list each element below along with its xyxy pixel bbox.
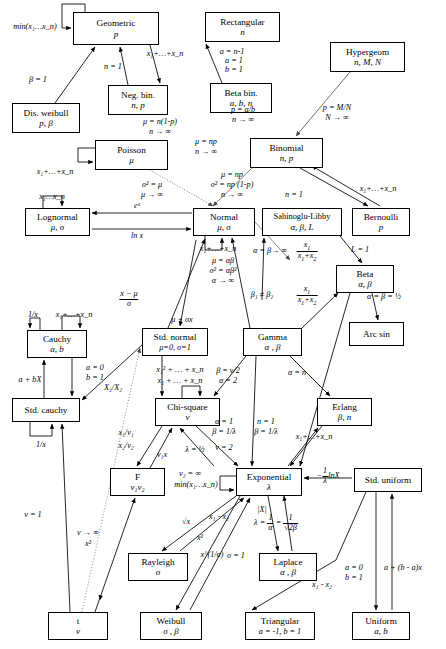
edge-label-p-equals-m-over-n: p = M/N bbox=[323, 103, 351, 112]
node-params: α , β bbox=[280, 567, 296, 577]
fraction-x1-over-x1-plus-x2-b: x1x1+x2 bbox=[297, 285, 318, 306]
edge-label-p-equals-a-over-b: p = a/b bbox=[231, 105, 255, 114]
edge-label-b-equals-1-cauchy: b = 1 bbox=[86, 373, 104, 382]
node-label: Gamma bbox=[258, 332, 287, 342]
node-binomial[interactable]: Binomial n, p bbox=[250, 138, 323, 168]
edge-label-min-geometric: min(x₁…x_n) bbox=[13, 22, 56, 31]
edge-label-ln-x: ln x bbox=[131, 231, 143, 240]
edge-label-beta-equals-1: β = 1 bbox=[29, 75, 47, 84]
node-rectangular[interactable]: Rectangular n bbox=[205, 12, 280, 42]
edge-label-x-to-1-over-alpha: x^(1/α) bbox=[200, 550, 223, 559]
node-std-cauchy[interactable]: Std. cauchy bbox=[12, 398, 80, 422]
fraction-x-minus-mu-over-sigma: x − μσ bbox=[119, 290, 138, 308]
node-params: μ=0, σ=1 bbox=[159, 343, 190, 352]
edge-label-xs-lognormal: x₁…x_n bbox=[39, 192, 65, 201]
edge-label-x2-over-nu2: x₂/ν₂ bbox=[118, 441, 133, 450]
node-gamma[interactable]: Gamma α , β bbox=[243, 328, 302, 356]
edge-label-nu-equals-2: ν = 2 bbox=[215, 443, 232, 452]
node-dis-weibull[interactable]: Dis. weibull p, β bbox=[12, 103, 80, 133]
edge-label-sum-geometric: x₁+…+x_n bbox=[147, 49, 184, 58]
edge-label-mu-alpha-beta: μ = αβ bbox=[212, 256, 234, 265]
node-label: Laplace bbox=[273, 557, 302, 567]
node-params: ν₁ν₂ bbox=[130, 482, 144, 492]
node-poisson[interactable]: Poisson μ bbox=[95, 140, 168, 170]
node-std-normal[interactable]: Std. normal μ=0, σ=1 bbox=[142, 328, 208, 356]
edge-label-sigma-sq-mu: σ² = μ bbox=[142, 180, 162, 189]
node-label: Chi-square bbox=[167, 402, 207, 412]
node-params: λ bbox=[267, 482, 271, 492]
fraction-1-over-alpha: 1α bbox=[267, 514, 273, 532]
edge-label-x1-over-nu1: x₁/ν₁ bbox=[118, 428, 133, 437]
edge-label-a-equals-0-cauchy: a = 0 bbox=[86, 363, 104, 372]
node-neg-bin[interactable]: Neg. bin. n, p bbox=[108, 85, 168, 115]
edge-label-x1-minus-x2-laplace: x₁ - x₂ bbox=[209, 512, 229, 521]
edge-label-sigma-sq-np-1-minus-p: σ² = np (1-p) bbox=[211, 180, 254, 189]
node-sahinoglu-libby[interactable]: Sahinoglu-Libby α, β, L bbox=[262, 208, 342, 236]
node-label: Std. cauchy bbox=[25, 405, 68, 415]
node-label: Beta bbox=[357, 269, 374, 279]
node-cauchy[interactable]: Cauchy a, b bbox=[27, 330, 87, 358]
edge-label-a-plus-bX: a + bX bbox=[19, 375, 42, 384]
fraction-x1-over-x1-plus-x2: x1x1+x2 bbox=[297, 241, 318, 262]
node-params: a = -1, b = 1 bbox=[259, 627, 301, 636]
node-params: σ bbox=[156, 567, 160, 577]
node-params: α, β bbox=[358, 279, 372, 289]
node-exponential[interactable]: Exponential λ bbox=[236, 468, 302, 496]
node-laplace[interactable]: Laplace α , β bbox=[259, 553, 317, 581]
node-f[interactable]: F ν₁ν₂ bbox=[110, 468, 165, 496]
edge-label-e-to-x: eˣ bbox=[134, 201, 140, 210]
node-params: p bbox=[114, 29, 119, 39]
node-label: Triangular bbox=[261, 616, 299, 626]
edge-label-a-equals-n-minus-1: a = n-1 bbox=[220, 47, 245, 56]
node-label: Binomial bbox=[269, 143, 303, 153]
node-erlang[interactable]: Erlang β, n bbox=[317, 398, 372, 426]
node-triangular[interactable]: Triangular a = -1, b = 1 bbox=[245, 612, 315, 640]
edge-label-sigma-sq-alpha-beta-sq: σ² = αβ² bbox=[210, 266, 237, 275]
node-bernoulli[interactable]: Bernoulli p bbox=[352, 208, 410, 236]
node-params: n, p bbox=[131, 100, 145, 110]
node-params: n, M, N bbox=[354, 57, 381, 67]
node-arc-sin[interactable]: Arc sin bbox=[349, 322, 404, 346]
node-params: β, n bbox=[338, 412, 351, 422]
node-label: Weibull bbox=[157, 616, 186, 626]
edge-label-alpha-equals-1-gamma: α = 1 bbox=[215, 417, 233, 426]
node-label: Erlang bbox=[332, 402, 357, 412]
edge-label-sum-chi: x₁ + … + x_n bbox=[158, 376, 203, 385]
node-chi-square[interactable]: Chi-square ν bbox=[155, 398, 220, 426]
node-label: Std. uniform bbox=[365, 475, 411, 485]
node-geometric[interactable]: Geometric p bbox=[73, 12, 159, 45]
edge-label-nu1-x: ν₁x bbox=[157, 450, 167, 459]
node-params: μ, σ bbox=[51, 222, 64, 232]
node-params: μ, σ bbox=[217, 222, 230, 232]
edge-label-x-squared-t: x² bbox=[85, 539, 91, 548]
node-uniform[interactable]: Uniform a, b bbox=[352, 612, 410, 640]
edge-label-sum-cauchy: x₁+…+x_n bbox=[56, 310, 93, 319]
node-t[interactable]: t ν bbox=[48, 612, 108, 640]
node-std-uniform[interactable]: Std. uniform bbox=[354, 468, 422, 492]
node-beta[interactable]: Beta α, β bbox=[336, 265, 394, 293]
node-lognormal[interactable]: Lognormal μ, σ bbox=[25, 208, 90, 236]
node-normal[interactable]: Normal μ, σ bbox=[193, 208, 255, 236]
node-params: ν bbox=[186, 412, 190, 422]
node-label: Neg. bin. bbox=[121, 90, 155, 100]
edge-label-b-equals-1: b = 1 bbox=[225, 65, 243, 74]
node-rayleigh[interactable]: Rayleigh σ bbox=[128, 553, 188, 581]
node-params: α , β bbox=[265, 342, 281, 352]
edge-label-x-minus-mu-over-sigma: x − μσ bbox=[119, 290, 138, 308]
edge-label-n-to-infinity-binomial: n → ∞ bbox=[195, 147, 217, 156]
edge-label-n-equals-1-erlang: n = 1 bbox=[257, 417, 275, 426]
edge-label-minus-ln-X: −1λlnX bbox=[317, 467, 340, 485]
edge-label-x1-minus-x2-triangular: x₁ - x₂ bbox=[312, 580, 332, 589]
edge-label-sum-poisson: x₁+…+x_n bbox=[37, 167, 74, 176]
edge-label-a-plus-b-minus-a-x: a + (b - a)x bbox=[384, 563, 422, 572]
node-label: F bbox=[135, 472, 140, 482]
node-label: Beta bin. bbox=[224, 88, 257, 98]
edge-label-mu-np-poisson: μ = np bbox=[195, 137, 217, 146]
node-label: t bbox=[77, 616, 80, 626]
edge-label-abs-X: |X| bbox=[257, 505, 267, 514]
edge-label-alpha-equals-2: α = 2 bbox=[219, 376, 237, 385]
node-weibull[interactable]: Weibull σ , β bbox=[140, 612, 202, 640]
node-label: Cauchy bbox=[43, 334, 71, 344]
node-params: n, p bbox=[280, 153, 294, 163]
node-hypergeom[interactable]: Hypergeom n, M, N bbox=[330, 42, 405, 72]
